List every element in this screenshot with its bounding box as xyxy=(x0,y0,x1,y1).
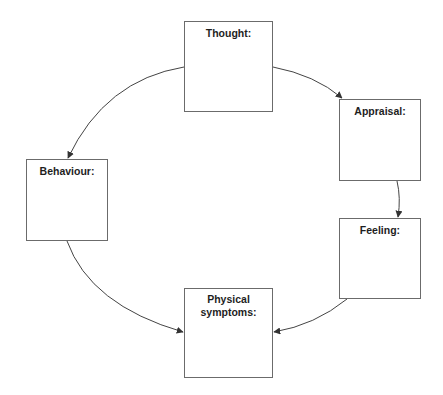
arrow-thought-to-appraisal xyxy=(273,67,342,98)
node-physical-symptoms-label: Physical symptoms: xyxy=(185,293,272,319)
cycle-diagram: Thought: Appraisal: Feeling: Physical sy… xyxy=(0,0,443,395)
node-appraisal: Appraisal: xyxy=(339,99,421,181)
node-thought: Thought: xyxy=(184,21,273,112)
node-physical-symptoms: Physical symptoms: xyxy=(184,288,273,378)
arrow-appraisal-to-feeling xyxy=(397,181,399,217)
node-behaviour: Behaviour: xyxy=(26,159,108,241)
node-appraisal-label: Appraisal: xyxy=(340,105,420,118)
node-thought-label: Thought: xyxy=(185,27,272,40)
node-feeling-label: Feeling: xyxy=(340,224,420,237)
arrow-thought-to-behaviour xyxy=(68,67,184,158)
arrow-behaviour-to-physical xyxy=(67,241,183,332)
arrow-feeling-to-physical xyxy=(274,299,347,332)
node-feeling: Feeling: xyxy=(339,218,421,299)
node-behaviour-label: Behaviour: xyxy=(27,165,107,178)
